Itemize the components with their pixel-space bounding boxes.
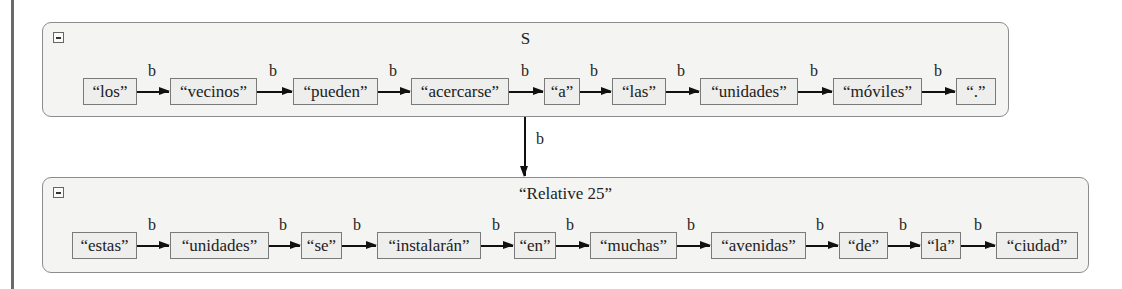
edge-label: b: [590, 62, 598, 80]
node-instalaran[interactable]: “instalarán”: [377, 232, 481, 259]
edge-arrow: [342, 245, 376, 247]
edge-arrow: [481, 245, 513, 247]
node-los[interactable]: “los”: [83, 78, 137, 105]
node-de[interactable]: “de”: [839, 232, 888, 259]
edge-arrow: [888, 245, 920, 247]
edge-arrow: [257, 91, 292, 93]
edge-label: b: [816, 216, 824, 234]
node-ciudad[interactable]: “ciudad”: [996, 232, 1078, 259]
edge-label: b: [521, 62, 529, 80]
node-unidades[interactable]: “unidades”: [700, 78, 798, 105]
edge-label: b: [389, 62, 397, 80]
node-muchas[interactable]: “muchas”: [590, 232, 677, 259]
node-pueden[interactable]: “pueden”: [293, 78, 378, 105]
node-avenidas[interactable]: “avenidas”: [711, 232, 806, 259]
node-la[interactable]: “la”: [921, 232, 961, 259]
edge-arrow: [798, 91, 832, 93]
node-estas[interactable]: “estas”: [72, 232, 137, 259]
edge-arrow: [666, 91, 699, 93]
edge-arrow: [378, 91, 410, 93]
edge-label: b: [492, 216, 500, 234]
edge-arrow: [137, 91, 169, 93]
container-title: S: [43, 29, 1008, 49]
edge-arrow: [677, 245, 710, 247]
edge-arrow: [961, 245, 995, 247]
edge-label: b: [974, 216, 982, 234]
edge-arrow: [806, 245, 838, 247]
node-acercarse[interactable]: “acercarse”: [411, 78, 509, 105]
edge-label: b: [934, 62, 942, 80]
node-las[interactable]: “las”: [612, 78, 666, 105]
edge-label: b: [677, 62, 685, 80]
edge-label: b: [148, 62, 156, 80]
node-period[interactable]: “.”: [956, 78, 996, 105]
node-en[interactable]: “en”: [514, 232, 556, 259]
edge-label: b: [148, 216, 156, 234]
edge-label: b: [279, 216, 287, 234]
container-title: “Relative 25”: [43, 184, 1088, 204]
page-margin-rule: [11, 0, 14, 289]
edge-arrow: [137, 245, 169, 247]
node-se[interactable]: “se”: [301, 232, 342, 259]
node-moviles[interactable]: “móviles”: [833, 78, 922, 105]
edge-label: b: [810, 62, 818, 80]
edge-arrow: [509, 91, 543, 93]
edge-label: b: [566, 216, 574, 234]
edge-label: b: [269, 62, 277, 80]
link-label: b: [536, 130, 544, 148]
node-a[interactable]: “a”: [544, 78, 580, 105]
edge-arrow: [269, 245, 300, 247]
edge-label: b: [687, 216, 695, 234]
edge-arrow: [922, 91, 955, 93]
link-arrow: [524, 117, 526, 176]
node-vecinos[interactable]: “vecinos”: [170, 78, 257, 105]
node-unidades[interactable]: “unidades”: [170, 232, 269, 259]
edge-label: b: [899, 216, 907, 234]
edge-arrow: [556, 245, 589, 247]
edge-arrow: [580, 91, 611, 93]
edge-label: b: [353, 216, 361, 234]
